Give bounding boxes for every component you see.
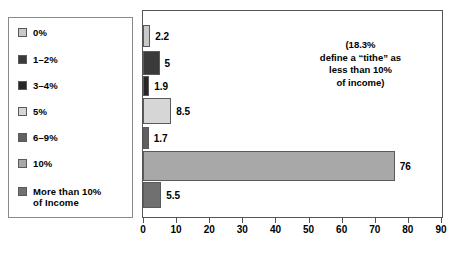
legend-swatch-icon	[18, 187, 27, 196]
legend-item: 6–9%	[18, 132, 58, 143]
annotation-note: (18.3% define a “tithe” as less than 10%…	[293, 39, 428, 89]
axis-tick-label: 60	[336, 224, 347, 235]
legend-item: 1–2%	[18, 54, 58, 65]
legend-item: 3–4%	[18, 80, 58, 91]
bar-row: 8.5	[143, 98, 190, 124]
bar-value-label: 1.7	[154, 133, 168, 144]
bar	[143, 25, 150, 47]
bar-row: 76	[143, 151, 411, 181]
bar-value-label: 2.2	[155, 31, 169, 42]
legend-swatch-icon	[18, 81, 27, 90]
axis-tick-label: 10	[171, 224, 182, 235]
legend-item-label: More than 10% of Income	[33, 186, 101, 208]
axis-tick-label: 90	[435, 224, 446, 235]
bar	[143, 151, 395, 181]
bar	[143, 51, 160, 75]
legend-item-label: 0%	[33, 27, 47, 38]
legend-swatch-icon	[18, 159, 27, 168]
bar-value-label: 5.5	[166, 190, 180, 201]
axis-tick-label: 20	[204, 224, 215, 235]
axis-tick	[375, 218, 376, 223]
bar	[143, 182, 161, 208]
bar-value-label: 8.5	[176, 106, 190, 117]
legend-swatch-icon	[18, 107, 27, 116]
axis-tick	[275, 218, 276, 223]
bar-value-label: 1.9	[154, 81, 168, 92]
bar-row: 5.5	[143, 182, 180, 208]
legend: 0%1–2%3–4%5%6–9%10%More than 10% of Inco…	[8, 17, 133, 218]
legend-item-label: 10%	[33, 158, 52, 169]
chart-figure: 0%1–2%3–4%5%6–9%10%More than 10% of Inco…	[0, 0, 457, 254]
axis-tick-label: 70	[369, 224, 380, 235]
axis-tick	[143, 218, 144, 223]
axis-tick-label: 50	[303, 224, 314, 235]
axis-tick	[242, 218, 243, 223]
bar-value-label: 76	[400, 161, 411, 172]
legend-swatch-icon	[18, 133, 27, 142]
bar	[143, 98, 171, 124]
bar-row: 1.9	[143, 76, 168, 96]
axis-tick	[342, 218, 343, 223]
legend-item: 0%	[18, 27, 47, 38]
legend-item: More than 10% of Income	[18, 186, 101, 208]
bar	[143, 127, 149, 149]
axis-tick	[309, 218, 310, 223]
x-axis: 0102030405060708090	[142, 218, 443, 248]
plot-area: 2.251.98.51.7765.5 (18.3% define a “tith…	[142, 10, 443, 218]
legend-swatch-icon	[18, 28, 27, 37]
axis-tick-label: 80	[402, 224, 413, 235]
axis-tick-label: 40	[270, 224, 281, 235]
axis-tick-label: 0	[140, 224, 146, 235]
bar	[143, 76, 149, 96]
axis-tick-label: 30	[237, 224, 248, 235]
axis-tick	[441, 218, 442, 223]
axis-tick	[176, 218, 177, 223]
legend-item-label: 3–4%	[33, 80, 58, 91]
legend-swatch-icon	[18, 55, 27, 64]
bar-row: 2.2	[143, 25, 169, 47]
legend-item-label: 1–2%	[33, 54, 58, 65]
legend-item-label: 6–9%	[33, 132, 58, 143]
axis-tick	[209, 218, 210, 223]
legend-item-label: 5%	[33, 106, 47, 117]
bar-value-label: 5	[165, 58, 171, 69]
legend-item: 5%	[18, 106, 47, 117]
bar-row: 1.7	[143, 127, 168, 149]
bar-row: 5	[143, 51, 170, 75]
axis-tick	[408, 218, 409, 223]
legend-item: 10%	[18, 158, 52, 169]
